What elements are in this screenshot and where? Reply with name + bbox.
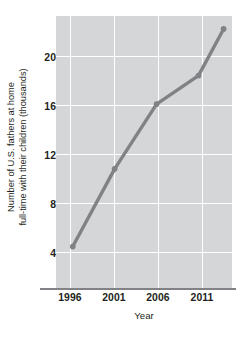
- data-point-2001: [112, 166, 118, 172]
- line-chart-figure: Number of U.S. fathers at home full-time…: [0, 0, 248, 338]
- y-axis-title: Number of U.S. fathers at home full-time…: [6, 68, 29, 225]
- x-axis-tick-labels: 1996 2001 2006 2011: [0, 292, 248, 308]
- data-point-1996: [70, 244, 76, 250]
- x-axis-title: Year: [56, 310, 232, 321]
- data-point-2014: [221, 26, 227, 32]
- data-series-layer: [56, 16, 232, 288]
- x-tick-label-2011: 2011: [180, 292, 224, 303]
- x-tick-label-2001: 2001: [92, 292, 136, 303]
- data-point-2011: [196, 73, 202, 79]
- data-point-2006: [154, 101, 160, 107]
- y-axis-title-rotator: Number of U.S. fathers at home full-time…: [0, 18, 36, 276]
- plot-area: [56, 16, 232, 288]
- x-axis-spine: [40, 288, 236, 290]
- y-axis-title-container: Number of U.S. fathers at home full-time…: [0, 0, 36, 300]
- series-line-fathers: [73, 29, 224, 247]
- x-tick-label-1996: 1996: [48, 292, 92, 303]
- x-tick-label-2006: 2006: [136, 292, 180, 303]
- series-markers: [70, 26, 227, 249]
